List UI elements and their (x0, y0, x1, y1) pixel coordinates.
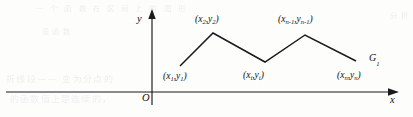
origin-label: O (142, 93, 150, 104)
point-label-1: (x1,y1) (163, 72, 187, 82)
point-label-n-minus-1: (xn-1,yn-1) (278, 15, 313, 25)
point-label-1-text: (x1,y1) (163, 71, 187, 81)
point-label-n-minus-1-text: (xn-1,yn-1) (278, 14, 313, 24)
curve-name-subscript: 1 (376, 60, 379, 67)
point-label-n-text: (xn,yn) (337, 70, 361, 80)
point-label-i: (xi,yi) (243, 71, 264, 81)
polyline-curve (180, 33, 356, 66)
y-axis-label: y (137, 14, 142, 25)
y-axis-arrowhead (148, 9, 155, 19)
point-label-n: (xn,yn) (337, 71, 361, 81)
x-axis-label: x (390, 95, 395, 106)
curve-name-label: G1 (369, 53, 380, 63)
figure-canvas: 一 个 函 数 在 区 间 上 的 图 形 设 函 数 折线段—— 变为分点的 … (0, 0, 413, 117)
point-label-2: (x2,y2) (195, 15, 219, 25)
point-label-2-text: (x2,y2) (195, 14, 219, 24)
point-label-i-text: (xi,yi) (243, 70, 264, 80)
